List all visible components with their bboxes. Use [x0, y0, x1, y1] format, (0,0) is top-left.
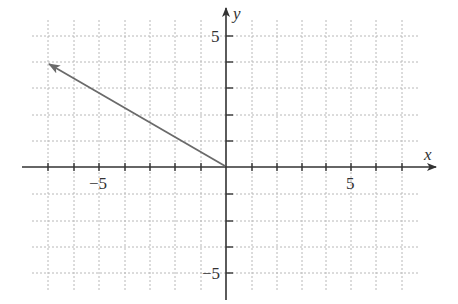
- y-tick-label-neg5: −5: [202, 264, 220, 283]
- coordinate-plane: x y −5 5 5 −5: [0, 0, 458, 304]
- vector-arrow: [49, 64, 225, 166]
- y-axis-ticks: [226, 36, 233, 273]
- y-axis-label: y: [231, 4, 241, 23]
- x-tick-label-5: 5: [346, 174, 355, 193]
- x-tick-label-neg5: −5: [89, 174, 107, 193]
- x-axis-label: x: [423, 145, 432, 164]
- horizontal-grid-lines: [32, 36, 418, 273]
- y-tick-label-5: 5: [211, 27, 220, 46]
- vertical-grid-lines: [48, 20, 402, 290]
